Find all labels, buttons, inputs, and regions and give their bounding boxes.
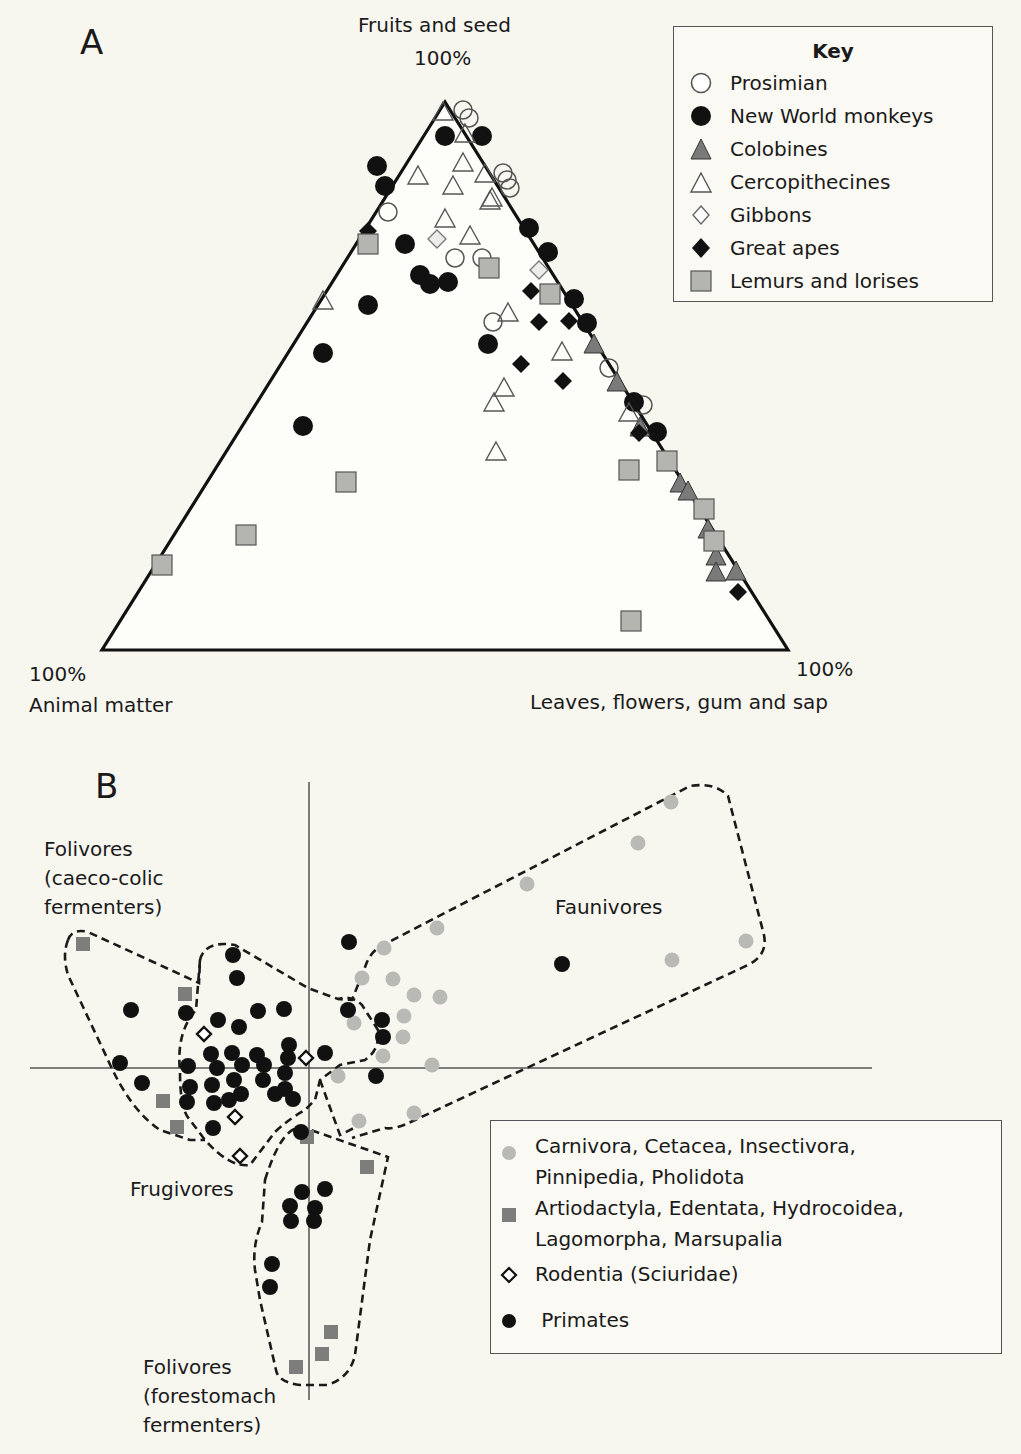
dot-black-marker <box>375 1029 391 1045</box>
dot-lightgray-marker <box>425 1058 440 1073</box>
diamond-open-icon <box>499 1265 519 1285</box>
legend-item-herbivore-orders: Artiodactyla, Edentata, Hydrocoidea, Lag… <box>535 1193 904 1255</box>
dot-black-marker <box>317 1045 333 1061</box>
dot-black-marker <box>256 1057 272 1073</box>
dot-lightgray-marker <box>664 795 679 810</box>
dot-lightgray-marker <box>397 1009 412 1024</box>
hull-folivores-caeco-colic-fermenters- <box>68 785 765 1138</box>
dot-lightgray-marker <box>377 941 392 956</box>
dot-black-marker <box>267 1086 283 1102</box>
dot-black-marker <box>276 1001 292 1017</box>
label-frugivores: Frugivores <box>130 1175 234 1204</box>
legend-label: Carnivora, Cetacea, Insectivora, Pinnipe… <box>535 1131 856 1193</box>
hull-hull-link <box>320 1080 360 1135</box>
dot-black-marker <box>255 1072 271 1088</box>
legend-label: Artiodactyla, Edentata, Hydrocoidea, Lag… <box>535 1193 904 1255</box>
dot-black-marker <box>229 970 245 986</box>
dot-lightgray-icon <box>499 1143 519 1163</box>
legend-item-primates: Primates <box>535 1305 629 1336</box>
dot-black-marker <box>209 1060 225 1076</box>
dot-black-marker <box>317 1181 333 1197</box>
square-darkgray-marker <box>360 1160 374 1174</box>
dot-black-marker <box>112 1055 128 1071</box>
square-darkgray-marker <box>76 937 90 951</box>
square-darkgray-marker <box>289 1360 303 1374</box>
dot-black-marker <box>182 1079 198 1095</box>
dot-lightgray-marker <box>665 953 680 968</box>
diamond-open-bold-marker <box>233 1149 247 1163</box>
square-darkgray-marker <box>315 1347 329 1361</box>
dot-black-marker <box>282 1198 298 1214</box>
dot-black-marker <box>226 1072 242 1088</box>
square-darkgray-icon <box>499 1205 519 1225</box>
diamond-open-bold-marker <box>228 1110 242 1124</box>
square-darkgray-marker <box>178 987 192 1001</box>
dot-lightgray-marker <box>386 972 401 987</box>
legend-item-rodentia: Rodentia (Sciuridae) <box>535 1259 739 1290</box>
dot-lightgray-marker <box>396 1030 411 1045</box>
dot-black-marker <box>225 947 241 963</box>
legend-panel-b: Carnivora, Cetacea, Insectivora, Pinnipe… <box>490 1120 1002 1354</box>
dot-black-marker <box>306 1213 322 1229</box>
square-darkgray-marker <box>170 1120 184 1134</box>
dot-lightgray-marker <box>430 921 445 936</box>
dot-lightgray-marker <box>407 1106 422 1121</box>
dot-black-marker <box>180 1058 196 1074</box>
diamond-open-bold-marker <box>197 1027 211 1041</box>
dot-black-marker <box>179 1094 195 1110</box>
legend-label: Rodentia (Sciuridae) <box>535 1259 739 1290</box>
dot-black-marker <box>280 1050 296 1066</box>
dot-black-marker <box>250 1003 266 1019</box>
dot-black-marker <box>205 1120 221 1136</box>
legend-label: Primates <box>535 1305 629 1336</box>
square-darkgray-marker <box>324 1325 338 1339</box>
dot-lightgray-marker <box>407 988 422 1003</box>
dot-black-marker <box>123 1002 139 1018</box>
dot-lightgray-marker <box>376 1049 391 1064</box>
dot-lightgray-marker <box>631 836 646 851</box>
diamond-open-bold-marker <box>299 1051 313 1065</box>
legend-item-faunivore-orders: Carnivora, Cetacea, Insectivora, Pinnipe… <box>535 1131 856 1193</box>
dot-black-marker <box>374 1012 390 1028</box>
dot-black-marker <box>210 1012 226 1028</box>
dot-black-marker <box>368 1068 384 1084</box>
dot-black-marker <box>178 1005 194 1021</box>
label-faunivores: Faunivores <box>555 893 662 922</box>
dot-black-marker <box>262 1279 278 1295</box>
dot-black-marker <box>204 1077 220 1093</box>
dot-black-marker <box>264 1256 280 1272</box>
dot-black-marker <box>221 1092 237 1108</box>
dot-lightgray-marker <box>331 1069 346 1084</box>
dot-black-icon <box>499 1311 519 1331</box>
dot-black-marker <box>206 1095 222 1111</box>
dot-black-marker <box>285 1091 301 1107</box>
dot-lightgray-marker <box>520 877 535 892</box>
dot-black-marker <box>234 1057 250 1073</box>
dot-lightgray-marker <box>739 934 754 949</box>
dot-black-marker <box>341 934 357 950</box>
dot-black-marker <box>293 1124 309 1140</box>
label-folivores-forestomach: Folivores (forestomach fermenters) <box>143 1353 276 1440</box>
dot-lightgray-marker <box>433 990 448 1005</box>
hull-hull-outer-left <box>65 940 205 1140</box>
square-darkgray-marker <box>156 1094 170 1108</box>
label-folivores-caeco-colic: Folivores (caeco-colic fermenters) <box>44 835 164 922</box>
dot-black-marker <box>231 1019 247 1035</box>
dot-black-marker <box>340 1002 356 1018</box>
dot-lightgray-marker <box>352 1114 367 1129</box>
dot-black-marker <box>283 1213 299 1229</box>
dot-black-marker <box>134 1075 150 1091</box>
dot-black-marker <box>203 1046 219 1062</box>
dot-black-marker <box>277 1065 293 1081</box>
dot-black-marker <box>554 956 570 972</box>
dot-black-marker <box>294 1184 310 1200</box>
dot-lightgray-marker <box>355 971 370 986</box>
